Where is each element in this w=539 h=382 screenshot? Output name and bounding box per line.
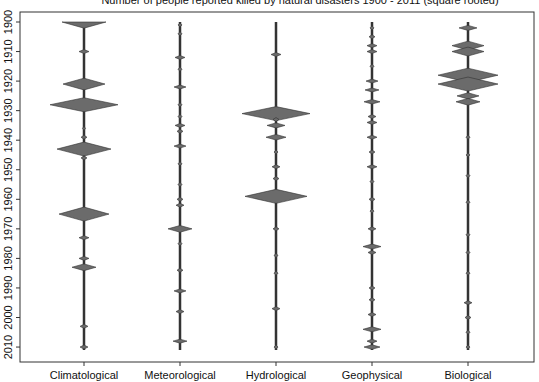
density-diamond [367, 50, 377, 54]
density-diamond [174, 144, 186, 148]
density-diamond [62, 22, 106, 28]
density-diamond [368, 227, 376, 231]
density-diamond [174, 289, 186, 293]
density-diamond [370, 209, 374, 213]
violin-chart: 1900191019201930194019501960197019801990… [0, 0, 539, 382]
density-diamond [80, 324, 88, 328]
density-diamond [178, 115, 182, 119]
density-diamond [81, 156, 87, 160]
density-diamond [267, 123, 285, 128]
density-diamond [178, 103, 182, 107]
density-diamond [245, 189, 307, 203]
density-diamond [176, 310, 184, 314]
density-diamond [80, 345, 88, 349]
x-tick-label: Biological [444, 369, 491, 381]
density-diamond [370, 64, 374, 68]
y-tick-label: 1900 [2, 10, 14, 34]
density-diamond [178, 162, 182, 166]
density-diamond [367, 120, 377, 124]
density-diamond [457, 93, 479, 99]
density-diamond [363, 327, 381, 332]
density-diamond [368, 115, 376, 119]
y-tick-label: 1950 [2, 158, 14, 182]
y-tick-label: 2000 [2, 305, 14, 329]
violin-series [50, 22, 498, 350]
violin-biological [438, 22, 498, 350]
density-diamond [59, 207, 109, 221]
density-diamond [178, 23, 182, 27]
density-diamond [79, 50, 89, 54]
density-diamond [178, 32, 182, 36]
y-tick-label: 1960 [2, 187, 14, 211]
violin-geophysical [363, 22, 381, 350]
x-tick-label: Hydrological [246, 369, 307, 381]
density-diamond [464, 301, 472, 305]
density-diamond [466, 153, 470, 157]
y-tick-label: 1930 [2, 98, 14, 122]
density-diamond [72, 264, 96, 271]
density-diamond [365, 88, 379, 92]
density-diamond [369, 197, 375, 201]
density-diamond [466, 200, 470, 204]
density-diamond [168, 225, 192, 232]
density-diamond [369, 298, 375, 302]
density-diamond [178, 242, 182, 246]
density-diamond [81, 135, 87, 139]
density-diamond [466, 233, 470, 237]
density-diamond [274, 150, 278, 154]
x-axis: ClimatologicalMeteorologicalHydrological… [50, 362, 492, 381]
y-tick-label: 1920 [2, 69, 14, 93]
density-diamond [367, 339, 377, 343]
density-diamond [173, 339, 187, 343]
density-diamond [364, 100, 380, 104]
x-tick-label: Climatological [50, 369, 118, 381]
density-diamond [274, 271, 278, 275]
density-diamond [178, 67, 182, 71]
density-diamond [369, 286, 375, 290]
density-diamond [466, 330, 470, 334]
density-diamond [177, 129, 183, 133]
density-diamond [367, 44, 377, 48]
density-diamond [176, 203, 184, 207]
density-diamond [452, 47, 484, 56]
density-diamond [273, 177, 279, 181]
density-diamond [366, 79, 378, 83]
violin-climatological [50, 22, 118, 350]
density-diamond [369, 150, 375, 154]
y-tick-label: 1940 [2, 128, 14, 152]
density-diamond [367, 135, 377, 139]
x-tick-label: Geophysical [342, 369, 403, 381]
density-diamond [466, 250, 470, 254]
density-diamond [174, 85, 186, 89]
y-tick-label: 1980 [2, 246, 14, 270]
density-diamond [364, 345, 380, 349]
density-diamond [57, 142, 111, 156]
density-diamond [272, 165, 280, 169]
density-diamond [79, 236, 89, 240]
density-diamond [370, 180, 374, 184]
y-tick-label: 1910 [2, 39, 14, 63]
density-diamond [368, 313, 376, 317]
density-diamond [459, 25, 477, 30]
density-diamond [273, 227, 279, 231]
density-diamond [266, 134, 286, 140]
density-diamond [370, 26, 374, 30]
density-diamond [271, 53, 281, 57]
density-diamond [368, 250, 376, 254]
density-diamond [466, 271, 470, 275]
density-diamond [177, 268, 183, 272]
y-tick-label: 1990 [2, 276, 14, 300]
density-diamond [63, 78, 105, 90]
violin-meteorological [168, 22, 192, 350]
density-diamond [466, 174, 470, 178]
density-diamond [50, 98, 118, 112]
density-diamond [274, 253, 278, 257]
violin-hydrological [242, 22, 310, 350]
density-diamond [175, 123, 185, 127]
density-diamond [456, 98, 480, 105]
density-diamond [466, 135, 470, 139]
density-diamond [272, 307, 280, 311]
y-tick-label: 1970 [2, 217, 14, 241]
density-diamond [369, 35, 375, 39]
density-diamond [177, 197, 183, 201]
